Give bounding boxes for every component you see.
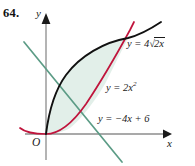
curve-label-parabola-exponent: 2 <box>133 80 137 88</box>
curve-label-parabola-base: y = 2x <box>106 82 133 93</box>
curve-label-sqrt-radicand: 2x <box>154 37 165 49</box>
y-axis-arrow-icon <box>42 13 51 24</box>
curve-label-parabola: y = 2x2 <box>106 80 136 93</box>
figure-container: 64. y x O y = 4√2x y = 2x2 y = −4x + 6 <box>0 0 195 166</box>
graph-svg <box>0 0 195 166</box>
origin-label: O <box>32 136 40 148</box>
x-axis-label: x <box>167 137 172 149</box>
curve-label-sqrt: y = 4√2x <box>127 38 165 49</box>
curve-label-sqrt-prefix: y = 4 <box>127 38 149 49</box>
y-axis-label: y <box>36 7 41 19</box>
curve-label-line: y = −4x + 6 <box>98 113 150 124</box>
